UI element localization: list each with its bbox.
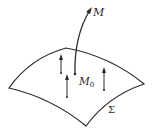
curve-M0-to-M [75,10,90,74]
surface-sigma [9,48,144,126]
normal-arrow-3 [102,67,106,91]
label-M0: M0 [78,75,94,89]
label-sigma: Σ [108,104,115,115]
normal-arrow-1 [59,54,63,74]
point-M0 [74,73,77,76]
label-M: M [92,6,105,19]
diagram-canvas: M M0 Σ [0,0,152,132]
normal-arrow-2 [65,74,69,98]
arrowhead-M-icon [86,7,92,14]
